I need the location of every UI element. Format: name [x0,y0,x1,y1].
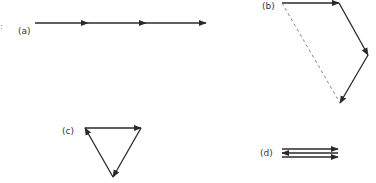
panel-d-label: (d) [260,148,273,158]
edge-mark [1,28,2,29]
edge-mark [1,25,2,26]
panel-a: (a) [18,23,206,36]
panel-a-label: (a) [18,26,31,36]
panel-c-label: (c) [62,126,74,136]
vector-diagram: (a) (b) (c) (d) [0,0,376,183]
vector-c3 [85,128,113,177]
panel-b: (b) [262,1,368,103]
vector-b2 [339,3,368,55]
panel-b-label: (b) [262,1,275,11]
panel-d: (d) [260,148,338,158]
panel-c: (c) [62,126,141,177]
vector-b3 [340,55,368,103]
resultant-b-dashed [282,3,340,103]
vector-c2 [113,128,141,177]
